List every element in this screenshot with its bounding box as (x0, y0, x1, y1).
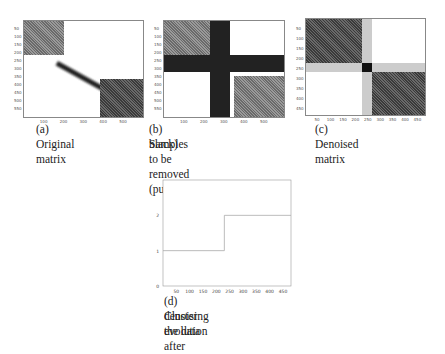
x-tick-label: 400 (265, 289, 274, 294)
x-tick-label: 450 (279, 289, 288, 294)
y-tick-label: 2 (156, 213, 159, 218)
x-tick-label: 350 (252, 289, 261, 294)
y-tick-label: 1 (156, 249, 159, 254)
plot-frame (163, 180, 291, 286)
x-tick-label: 300 (239, 289, 248, 294)
x-tick-label: 200 (212, 289, 221, 294)
caption-d-line2: denoising the data (164, 309, 209, 339)
y-tick-label: 0 (156, 284, 159, 289)
x-tick-label: 250 (225, 289, 234, 294)
